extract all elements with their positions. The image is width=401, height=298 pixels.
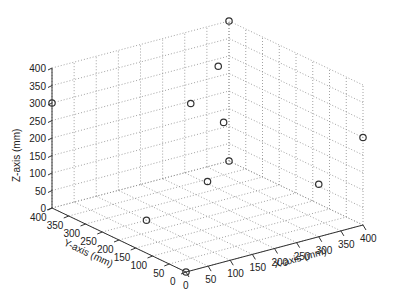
x-tick xyxy=(319,237,322,242)
x-axis-label: X-axis (mm) xyxy=(273,245,328,270)
z-tick xyxy=(48,156,52,158)
tick-labels: 0501001502002503003504000501001502002503… xyxy=(29,63,377,291)
z-tick xyxy=(48,68,52,70)
z-tick xyxy=(48,86,52,88)
z-tick xyxy=(48,121,52,123)
z-tick xyxy=(48,191,52,193)
y-tick xyxy=(114,240,119,242)
x-tick xyxy=(252,254,255,259)
y-tick xyxy=(97,232,102,234)
z-tick-label: 200 xyxy=(29,133,46,144)
z-tick xyxy=(48,173,52,175)
z-tick-label: 400 xyxy=(29,63,46,74)
grid-lines xyxy=(52,21,363,272)
grid-line xyxy=(229,39,363,103)
x-tick-label: 0 xyxy=(183,280,189,291)
z-tick-label: 150 xyxy=(29,151,46,162)
x-tick xyxy=(230,260,233,265)
data-point xyxy=(215,63,221,69)
z-tick xyxy=(48,138,52,140)
scatter-3d-plot: 0501001502002503003504000501001502002503… xyxy=(0,0,401,298)
y-tick xyxy=(131,248,136,250)
x-tick-label: 150 xyxy=(249,262,266,273)
y-tick-label: 50 xyxy=(153,268,165,279)
x-tick-label: 50 xyxy=(205,274,217,285)
x-tick xyxy=(363,225,366,230)
data-point xyxy=(220,119,226,125)
y-tick-label: 150 xyxy=(114,252,131,263)
x-tick-label: 350 xyxy=(338,239,355,250)
z-axis-label: Z-axis (mm) xyxy=(11,129,22,182)
y-tick-label: 350 xyxy=(47,220,64,231)
z-tick-label: 0 xyxy=(40,203,46,214)
z-tick-label: 100 xyxy=(29,168,46,179)
grid-line xyxy=(136,201,313,248)
y-tick-label: 100 xyxy=(131,260,148,271)
y-tick xyxy=(81,224,86,226)
x-tick xyxy=(297,243,300,248)
grid-line xyxy=(119,193,296,240)
z-tick-label: 300 xyxy=(29,98,46,109)
y-tick xyxy=(148,256,153,258)
z-tick-label: 350 xyxy=(29,81,46,92)
x-tick-label: 400 xyxy=(360,233,377,244)
z-tick-label: 50 xyxy=(35,186,47,197)
x-tick xyxy=(208,266,211,271)
data-point xyxy=(188,100,194,106)
y-tick xyxy=(64,216,69,218)
x-tick xyxy=(341,231,344,236)
z-tick-label: 250 xyxy=(29,116,46,127)
y-tick xyxy=(164,264,169,266)
x-tick-label: 100 xyxy=(227,268,244,279)
y-tick-label: 0 xyxy=(170,276,176,287)
x-tick xyxy=(275,249,278,254)
